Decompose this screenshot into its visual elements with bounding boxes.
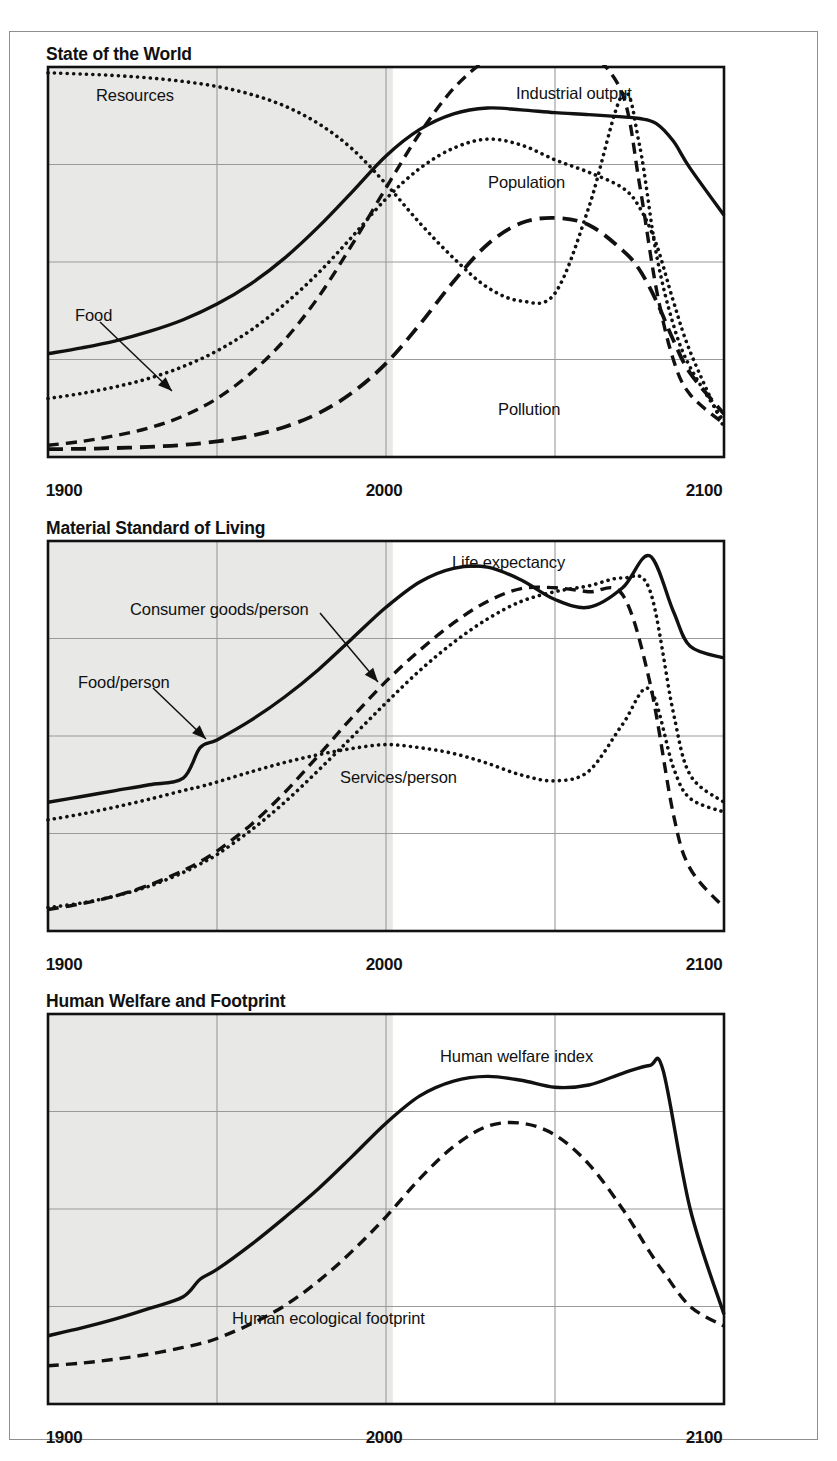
curve-label-industrial-output: Industrial output [516,84,632,103]
curve-label-human-welfare-index: Human welfare index [440,1047,593,1066]
x-tick-label-1900: 1900 [46,1428,83,1448]
curve-label-pollution: Pollution [498,400,560,419]
curve-label-life-expectancy: Life expectancy [452,553,565,572]
panel-human-welfare-and-footprint: Human Welfare and Footprint 190020002100 [46,991,806,1431]
curve-label-resources: Resources [96,86,174,105]
x-tick-label-2000: 2000 [366,1428,403,1448]
x-tick-label-2100: 2100 [686,955,723,975]
x-tick-label-1900: 1900 [46,481,83,501]
x-tick-label-2000: 2000 [366,955,403,975]
panel-title-material-standard-of-living: Material Standard of Living [46,518,265,539]
plot-area-human-welfare-and-footprint: 190020002100 [46,1012,726,1406]
panel-title-human-welfare-and-footprint: Human Welfare and Footprint [46,991,285,1012]
curve-label-food-person: Food/person [78,673,170,692]
panel-state-of-the-world: State of the World 190020002100 [46,44,806,484]
chart-svg-state-of-the-world [46,65,726,459]
figure-page: State of the World 190020002100 Material… [0,0,837,1461]
curve-label-services-person: Services/person [340,768,457,787]
plot-area-material-standard-of-living: 190020002100 [46,539,726,933]
curve-label-human-ecological-footprint: Human ecological footprint [232,1309,425,1328]
curve-label-population: Population [488,173,565,192]
chart-svg-material-standard-of-living [46,539,726,933]
panel-material-standard-of-living: Material Standard of Living 190020002100 [46,518,806,958]
x-tick-label-2100: 2100 [686,1428,723,1448]
x-tick-label-2100: 2100 [686,481,723,501]
x-tick-label-1900: 1900 [46,955,83,975]
curve-label-food: Food [75,306,112,325]
x-tick-label-2000: 2000 [366,481,403,501]
plot-area-state-of-the-world: 190020002100 [46,65,726,459]
curve-label-consumer-goods-person: Consumer goods/person [130,600,309,619]
chart-svg-human-welfare-and-footprint [46,1012,726,1406]
panel-title-state-of-the-world: State of the World [46,44,192,65]
